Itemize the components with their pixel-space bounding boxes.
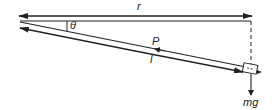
tension-arrow (155, 49, 165, 51)
r-label: r (137, 0, 142, 12)
box-arrow-icon (257, 70, 262, 74)
force-diagram: r P θ l mg (0, 0, 272, 110)
P-label: P (152, 35, 160, 47)
mg-label: mg (243, 96, 259, 108)
l-dimension-arrow (20, 28, 243, 72)
cable-line (20, 22, 246, 67)
theta-label: θ (70, 19, 76, 31)
mass-box (242, 63, 257, 75)
